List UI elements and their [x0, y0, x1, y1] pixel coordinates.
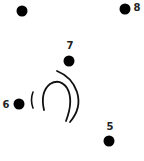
inner-arch-curve — [43, 82, 70, 121]
dot-label-5: 5 — [107, 122, 114, 132]
dot-8 — [120, 4, 131, 15]
dot-6 — [14, 99, 25, 110]
dot-label-7: 7 — [67, 41, 74, 51]
dot-label-8: 8 — [134, 3, 141, 13]
dot-label-6: 6 — [3, 100, 10, 110]
dot-5 — [104, 136, 115, 147]
drawing-curves — [0, 0, 144, 161]
small-left-arc — [32, 92, 34, 108]
dot-label-10: 10 — [15, 0, 29, 2]
dot-puzzle-canvas: 10 8 7 6 5 — [0, 0, 144, 161]
dot-10 — [17, 6, 28, 17]
dot-7 — [64, 56, 75, 67]
